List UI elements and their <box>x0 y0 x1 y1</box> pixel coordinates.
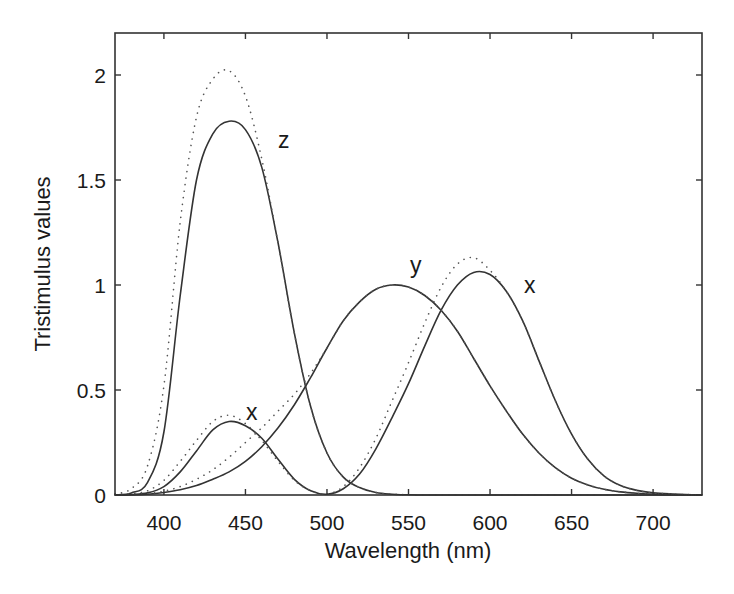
x-tick-label: 450 <box>228 511 263 534</box>
ticks-group <box>115 33 702 495</box>
curve-z-solid <box>115 121 702 495</box>
curve-z-dotted <box>115 70 702 495</box>
x-tick-label: 550 <box>391 511 426 534</box>
x-axis-label: Wavelength (nm) <box>325 538 492 563</box>
y-tick-label: 2 <box>94 64 106 87</box>
x-tick-label: 700 <box>636 511 671 534</box>
y-tick-label: 0.5 <box>77 379 106 402</box>
y-tick-label: 1.5 <box>77 169 106 192</box>
curve-label-x-small: x <box>246 399 258 425</box>
tristimulus-chart: 40045050055060065070000.511.52 Wavelengt… <box>0 0 734 594</box>
plot-frame <box>115 33 702 495</box>
curve-y-dotted <box>115 285 702 495</box>
tick-labels-group: 40045050055060065070000.511.52 <box>77 64 671 534</box>
y-axis-label: Tristimulus values <box>30 176 55 351</box>
curve-y-solid <box>115 285 702 495</box>
x-tick-label: 650 <box>554 511 589 534</box>
y-tick-label: 1 <box>94 274 106 297</box>
x-tick-label: 400 <box>146 511 181 534</box>
x-tick-label: 500 <box>309 511 344 534</box>
x-tick-label: 600 <box>473 511 508 534</box>
curve-label-z: z <box>278 127 290 153</box>
curve-x-solid <box>115 271 702 495</box>
curves-group <box>115 70 702 495</box>
y-tick-label: 0 <box>94 484 106 507</box>
curve-label-y: y <box>410 252 422 278</box>
curve-x-dotted <box>115 257 702 494</box>
curve-label-x-large: x <box>524 272 536 298</box>
